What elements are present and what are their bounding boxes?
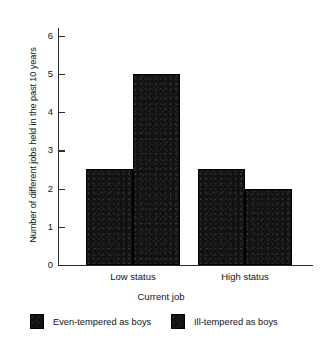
chart-legend: Even-tempered as boys Ill-tempered as bo… [0,313,322,335]
legend-label-ill-tempered: Ill-tempered as boys [194,317,278,327]
y-tick-mark [59,227,65,228]
y-tick-label: 4 [48,107,53,117]
y-tick-mark [59,112,65,113]
y-tick-mark [59,36,65,37]
x-axis-line [58,265,313,266]
legend-item-even-tempered: Even-tempered as boys [30,314,151,329]
y-axis-line [58,28,59,266]
y-tick-label: 1 [48,222,53,232]
y-tick-mark [59,189,65,190]
bar-low-status-even-tempered-as-boys [86,169,133,265]
x-tick-label-high-status: High status [221,271,269,282]
y-tick-label: 3 [48,146,53,156]
y-tick-label: 0 [48,260,53,270]
legend-swatch-even-tempered-icon [30,314,44,329]
bar-high-status-even-tempered-as-boys [198,169,245,265]
y-tick-label: 5 [48,69,53,79]
y-tick-mark [59,265,65,266]
y-axis-label: Number of different jobs held in the pas… [28,20,38,270]
y-tick-mark [59,150,65,151]
legend-swatch-ill-tempered-icon [171,314,185,329]
plot-area: 0123456 [58,24,313,266]
legend-label-even-tempered: Even-tempered as boys [53,317,151,327]
x-axis-label: Current job [0,291,322,302]
bar-high-status-ill-tempered-as-boys [245,189,292,265]
y-tick-mark [59,74,65,75]
x-tick-label-low-status: Low status [110,271,155,282]
legend-item-ill-tempered: Ill-tempered as boys [171,314,278,329]
bar-chart-figure: Number of different jobs held in the pas… [0,0,322,341]
y-tick-label: 2 [48,184,53,194]
y-tick-label: 6 [48,31,53,41]
bar-low-status-ill-tempered-as-boys [133,74,180,265]
